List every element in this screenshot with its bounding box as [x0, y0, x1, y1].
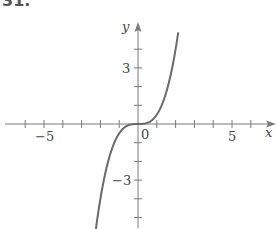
data-curve	[96, 32, 179, 229]
axes	[5, 22, 276, 228]
y-axis-label: y	[122, 20, 129, 33]
x-tick-label-neg5: −5	[35, 130, 54, 143]
y-tick-label-neg3: −3	[112, 174, 131, 187]
x-tick-label-0: 0	[141, 128, 149, 141]
x-tick-label-5: 5	[228, 130, 236, 143]
x-axis-label: x	[265, 126, 272, 139]
y-tick-label-3: 3	[122, 62, 130, 75]
chart-plot	[0, 0, 278, 229]
